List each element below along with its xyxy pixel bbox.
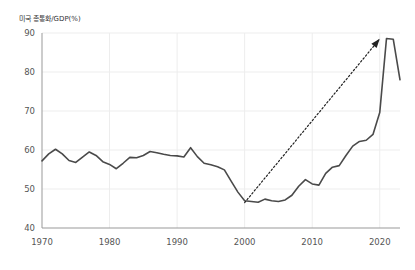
y-tick-label: 70 bbox=[24, 106, 35, 116]
y-tick-label: 80 bbox=[24, 67, 35, 77]
x-tick-label: 1980 bbox=[99, 237, 121, 247]
x-tick-label: 2020 bbox=[369, 237, 391, 247]
axis-lines bbox=[42, 33, 400, 228]
grid-lines bbox=[42, 33, 400, 228]
x-axis-tick-labels: 197019801990200020102020 bbox=[31, 237, 390, 247]
y-tick-label: 60 bbox=[24, 145, 35, 155]
y-axis-tick-labels: 405060708090 bbox=[24, 28, 35, 233]
chart-plot-area: 405060708090 197019801990200020102020 bbox=[0, 0, 415, 270]
data-series-line bbox=[42, 38, 400, 202]
x-tick-label: 1990 bbox=[166, 237, 188, 247]
x-tick-label: 1970 bbox=[31, 237, 53, 247]
x-tick-label: 2000 bbox=[234, 237, 256, 247]
y-tick-label: 50 bbox=[24, 184, 35, 194]
y-tick-label: 90 bbox=[24, 28, 35, 38]
series-line-path bbox=[42, 38, 400, 202]
chart-container: 미국 총통화/GDP(%) 405060708090 1970198019902… bbox=[0, 0, 415, 270]
x-tick-label: 2010 bbox=[301, 237, 323, 247]
y-tick-label: 40 bbox=[24, 223, 35, 233]
